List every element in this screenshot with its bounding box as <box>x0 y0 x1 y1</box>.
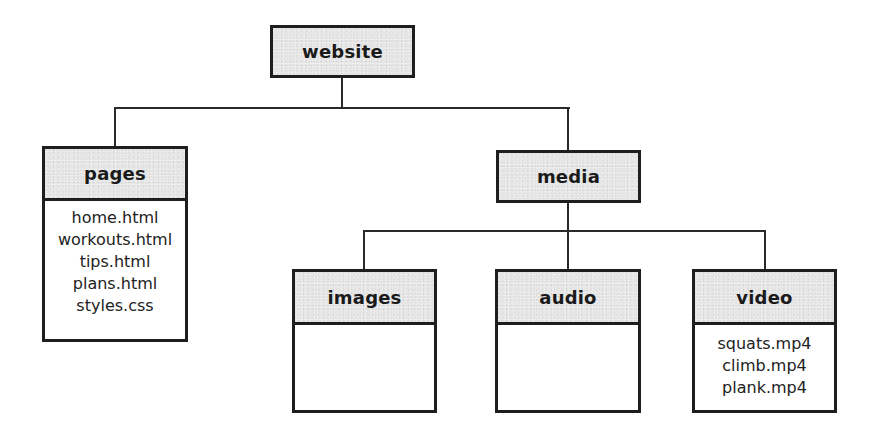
file-item: home.html <box>72 207 159 229</box>
connector-media-down <box>567 202 569 270</box>
file-item: plank.mp4 <box>722 377 807 399</box>
folder-label-audio: audio <box>498 272 638 325</box>
folder-node-media: media <box>496 150 641 203</box>
folder-node-website: website <box>270 25 415 78</box>
file-item: squats.mp4 <box>717 333 811 355</box>
connector-website-down <box>341 77 343 109</box>
file-list-audio <box>498 325 638 331</box>
folder-node-video: video squats.mp4 climb.mp4 plank.mp4 <box>692 269 837 413</box>
connector-to-media <box>567 107 569 151</box>
folder-node-pages: pages home.html workouts.html tips.html … <box>42 146 188 342</box>
connector-level1-bus <box>114 107 570 109</box>
folder-node-images: images <box>292 269 437 413</box>
folder-label-images: images <box>295 272 434 325</box>
file-list-video: squats.mp4 climb.mp4 plank.mp4 <box>695 325 834 399</box>
folder-label-media: media <box>499 153 638 200</box>
connector-to-pages <box>114 107 116 147</box>
connector-to-images <box>363 230 365 270</box>
file-item: plans.html <box>73 273 157 295</box>
folder-node-audio: audio <box>495 269 641 413</box>
file-list-pages: home.html workouts.html tips.html plans.… <box>45 201 185 317</box>
folder-label-video: video <box>695 272 834 325</box>
file-item: tips.html <box>80 251 151 273</box>
file-item: styles.css <box>76 295 153 317</box>
folder-label-pages: pages <box>45 149 185 201</box>
file-item: climb.mp4 <box>722 355 806 377</box>
folder-label-website: website <box>273 28 412 75</box>
file-item: workouts.html <box>58 229 172 251</box>
connector-level2-bus <box>363 230 766 232</box>
connector-to-video <box>764 230 766 270</box>
file-list-images <box>295 325 434 331</box>
